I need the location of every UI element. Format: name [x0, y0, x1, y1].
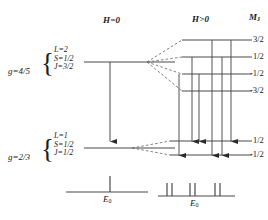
- mj-value-upper-4: -3/2: [250, 86, 264, 95]
- mj-value-upper-2: 1/2: [253, 52, 264, 61]
- mj-value-lower-1: 1/2: [253, 136, 264, 145]
- zeeman-effect-figure: H=0 H>0 MJ g=4/5 { L=2 S=1/2 J=3/2 g=2/3…: [0, 0, 268, 220]
- zero-field-spectrum-axis-label: E0: [103, 195, 112, 204]
- e0-subscript-right: 0: [196, 202, 199, 208]
- diagram-canvas: [0, 0, 268, 220]
- mj-value-upper-3: -1/2: [250, 69, 264, 78]
- split-field-spectrum: [158, 183, 235, 196]
- upper-term-J: J=3/2: [54, 63, 74, 72]
- zero-field-levels: [84, 62, 175, 148]
- lower-term-brace: {: [41, 136, 54, 163]
- zero-field-spectrum: [66, 176, 148, 192]
- lower-term-J: J=1/2: [54, 149, 74, 158]
- lower-term-quantum-numbers: L=1 S=1/2 J=1/2: [54, 132, 74, 158]
- header-zero-field: H=0: [103, 16, 120, 25]
- lower-split-levels: [170, 141, 247, 155]
- upper-term-fan-lines: [147, 40, 182, 91]
- upper-term-brace: {: [41, 50, 54, 77]
- lower-term-g-factor: g=2/3: [8, 153, 30, 162]
- mj-value-lower-2: -1/2: [250, 150, 264, 159]
- mj-column-header: MJ: [249, 13, 260, 22]
- mj-header-letter: M: [249, 12, 257, 22]
- upper-term-quantum-numbers: L=2 S=1/2 J=3/2: [54, 46, 74, 72]
- upper-term-g-factor: g=4/5: [8, 67, 30, 76]
- mj-tick-stubs: [247, 40, 252, 155]
- e0-subscript-left: 0: [109, 198, 112, 204]
- split-field-spectrum-axis-label: E0: [190, 199, 199, 208]
- mj-value-upper-1: 3/2: [253, 35, 264, 44]
- mj-header-subscript: J: [257, 16, 260, 22]
- header-nonzero-field: H>0: [192, 15, 209, 24]
